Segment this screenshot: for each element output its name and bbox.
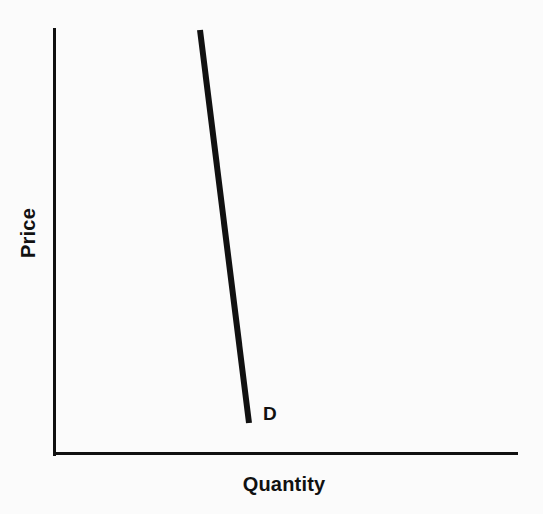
demand-curve-label: D <box>263 404 277 423</box>
demand-curve-line <box>200 30 249 423</box>
demand-curve-figure: Price Quantity D <box>0 0 543 514</box>
plot-area <box>0 0 543 514</box>
y-axis-label: Price <box>18 208 38 258</box>
x-axis-label: Quantity <box>243 474 326 494</box>
